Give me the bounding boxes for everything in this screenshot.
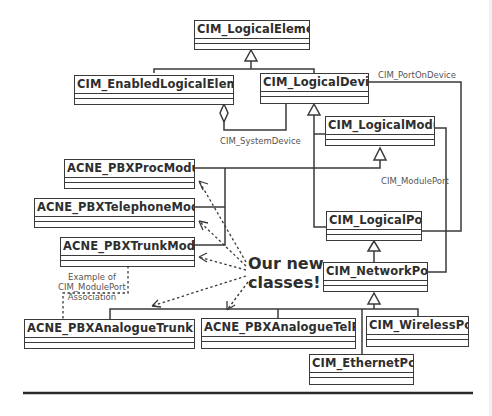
- class-operations: [261, 97, 368, 101]
- class-cim-logical-element: CIM_LogicalElement: [194, 20, 310, 50]
- class-operations: [75, 99, 233, 103]
- class-name: CIM_LogicalModule: [326, 117, 434, 135]
- class-operations: [202, 342, 355, 346]
- callout-our-new-classes: Our new classes!: [248, 254, 323, 292]
- label-example-module-port: Example of CIM_ModulePort Association: [52, 272, 132, 302]
- example-line-1: Example of: [52, 272, 132, 282]
- label-module-port: CIM_ModulePort: [381, 176, 449, 186]
- system-device-association: [224, 103, 286, 130]
- example-line-3: Association: [52, 292, 132, 302]
- generalization-triangle: [308, 104, 320, 115]
- logical-module-generalization: [194, 160, 380, 168]
- dashed-arrow-trunk-module: [199, 257, 246, 270]
- label-port-on-device: CIM_PortOnDevice: [378, 70, 456, 80]
- example-line-2: CIM_ModulePort: [52, 282, 132, 292]
- callout-line-1: Our new: [248, 254, 323, 273]
- class-name: CIM_NetworkPort: [324, 263, 427, 281]
- class-acne-pbx-analogue-trunk-port: ACNE_PBXAnalogueTrunkPort: [24, 319, 195, 349]
- class-operations: [310, 378, 413, 382]
- dashed-arrow-tel-port: [227, 282, 248, 310]
- generalization-triangle: [368, 293, 380, 304]
- class-name: CIM_WirelessPort: [367, 317, 468, 335]
- class-name: CIM_LogicalElement: [195, 21, 309, 39]
- generalization-triangle: [374, 148, 386, 160]
- class-name: ACNE_PBXAnalogueTrunkPort: [25, 320, 194, 338]
- class-cim-logical-port: CIM_LogicalPort: [326, 211, 422, 241]
- label-system-device: CIM_SystemDevice: [220, 136, 301, 146]
- dashed-arrow-proc-module: [199, 181, 246, 262]
- class-operations: [61, 261, 194, 265]
- generalization-triangle: [368, 241, 380, 251]
- class-cim-enabled-logical-element: CIM_EnabledLogicalElement: [74, 75, 234, 105]
- generalization-triangle: [245, 50, 257, 61]
- class-cim-logical-module: CIM_LogicalModule: [325, 116, 435, 146]
- class-operations: [35, 222, 194, 226]
- class-acne-pbx-proc-module: ACNE_PBXProcModule: [64, 159, 195, 189]
- class-operations: [65, 183, 194, 187]
- class-operations: [25, 343, 194, 347]
- dashed-arrow-trunk-port: [152, 276, 246, 306]
- class-name: CIM_EthernetPort: [310, 355, 413, 373]
- class-operations: [324, 286, 427, 290]
- class-operations: [195, 44, 309, 48]
- class-cim-network-port: CIM_NetworkPort: [323, 262, 428, 292]
- class-name: ACNE_PBXProcModule: [65, 160, 194, 178]
- class-name: ACNE_PBXAnalogueTelPort: [202, 319, 355, 337]
- class-cim-logical-device: CIM_LogicalDevice: [260, 73, 369, 104]
- callout-line-2: classes!: [248, 273, 323, 292]
- aggregation-diamond: [220, 104, 228, 122]
- module-port-association: [427, 128, 446, 272]
- class-name: ACNE_PBXTelephoneModule: [35, 199, 194, 217]
- class-acne-pbx-trunk-module: ACNE_PBXTrunkModule: [60, 237, 195, 267]
- class-name: ACNE_PBXTrunkModule: [61, 238, 194, 256]
- class-acne-pbx-analogue-tel-port: ACNE_PBXAnalogueTelPort: [201, 318, 356, 349]
- class-name: CIM_EnabledLogicalElement: [75, 76, 233, 94]
- class-acne-pbx-telephone-module: ACNE_PBXTelephoneModule: [34, 198, 195, 228]
- class-name: CIM_LogicalDevice: [261, 74, 368, 92]
- class-cim-ethernet-port: CIM_EthernetPort: [309, 354, 414, 385]
- uml-class-diagram: CIM_LogicalElement CIM_EnabledLogicalEle…: [0, 0, 492, 416]
- class-operations: [327, 235, 421, 239]
- class-name: CIM_LogicalPort: [327, 212, 421, 230]
- class-operations: [367, 340, 468, 344]
- class-cim-wireless-port: CIM_WirelessPort: [366, 316, 469, 347]
- class-operations: [326, 140, 434, 144]
